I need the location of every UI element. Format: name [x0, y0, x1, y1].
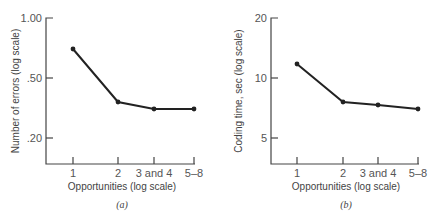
x-tick-label: 1 [70, 167, 76, 179]
data-point [295, 62, 300, 67]
y-tick-label: 5 [261, 132, 267, 144]
y-tick-label: .50 [27, 72, 42, 84]
data-point [376, 103, 381, 108]
x-tick-label: 2 [340, 167, 346, 179]
x-tick-label: 2 [115, 167, 121, 179]
data-point [152, 107, 157, 112]
chart-b-series-line [297, 64, 418, 109]
x-axis-label: Opportunities (log scale) [292, 181, 400, 192]
chart-a-series-line [73, 49, 194, 109]
data-point [416, 107, 421, 112]
y-tick-label: .20 [27, 132, 42, 144]
chart-b-axes [271, 18, 419, 164]
x-tick-label: 3 and 4 [360, 167, 397, 179]
panel-caption: (b) [340, 199, 352, 211]
chart-a-plot: 1.00 .50 .20 1 2 3 and 4 5–8 Opportuniti… [0, 0, 219, 214]
data-point [116, 100, 121, 105]
chart-a-errors: 1.00 .50 .20 1 2 3 and 4 5–8 Opportuniti… [0, 0, 219, 214]
y-axis-label: Coding time, sec (log scale) [233, 29, 244, 152]
x-tick-label: 5–8 [409, 167, 427, 179]
chart-a-axes [46, 18, 195, 164]
panel-caption: (a) [116, 199, 128, 211]
x-tick-label: 3 and 4 [136, 167, 173, 179]
chart-b-plot: 20 10 5 1 2 3 and 4 5–8 Opportunities (l… [219, 0, 438, 214]
y-axis-label: Number of errors (log scale) [10, 29, 21, 153]
y-tick-label: 10 [255, 72, 267, 84]
x-tick-label: 1 [294, 167, 300, 179]
x-axis-label: Opportunities (log scale) [68, 181, 176, 192]
data-point [192, 107, 197, 112]
y-tick-label: 1.00 [21, 12, 42, 24]
y-tick-label: 20 [255, 12, 267, 24]
data-point [71, 47, 76, 52]
x-tick-label: 5–8 [185, 167, 203, 179]
chart-b-coding-time: 20 10 5 1 2 3 and 4 5–8 Opportunities (l… [219, 0, 438, 214]
data-point [341, 100, 346, 105]
